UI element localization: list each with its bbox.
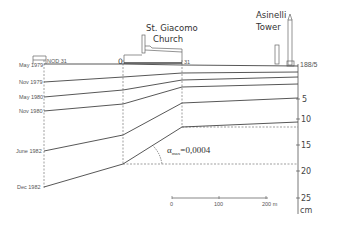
profile-june-1982 <box>44 98 298 151</box>
scale-tick-0: 0 <box>170 201 173 207</box>
profile-may-1979 <box>44 64 298 66</box>
profile-nov-1979 <box>44 72 298 82</box>
alpha-angle-arc <box>152 145 162 164</box>
date-label-june-1982: June 1982 <box>16 148 42 154</box>
mark-31-label: 31 <box>184 59 190 65</box>
axis-tick-15: 15 <box>301 141 311 150</box>
church-label-line2: Church <box>153 34 183 44</box>
tower-label-line1: Asinelli <box>256 10 286 20</box>
nod-label: NOD 31 <box>47 58 67 64</box>
axis-tick-5: 5 <box>302 95 307 104</box>
scale-tick-100: 100 <box>214 201 223 207</box>
axis-tick-25: 25 <box>301 194 311 203</box>
ref-188-label: 188/5 <box>300 61 318 68</box>
date-label-may-1979: May 1979 <box>19 62 43 68</box>
axis-unit: cm <box>300 206 312 215</box>
axis-tick-20: 20 <box>301 167 311 176</box>
subsidence-diagram: NOD 31 St. Giacomo Church 0 31 Asinelli … <box>0 0 344 225</box>
alpha-annotation: αmax=0,0004 <box>167 145 211 156</box>
axis-tick-10: 10 <box>301 115 311 124</box>
church-label-line1: St. Giacomo <box>146 23 198 33</box>
zero-mark-label: 0 <box>118 57 123 66</box>
profile-nov-1980 <box>44 84 298 111</box>
date-label-nov-1979: Nov 1979 <box>19 79 43 85</box>
date-label-may-1980: May 1980 <box>19 94 43 100</box>
date-label-dec-1982: Dec 1982 <box>17 184 41 190</box>
scale-tick-200: 200 m <box>262 201 278 207</box>
tower-label-line2: Tower <box>255 22 281 32</box>
date-label-nov-1980: Nov 1980 <box>19 108 43 114</box>
